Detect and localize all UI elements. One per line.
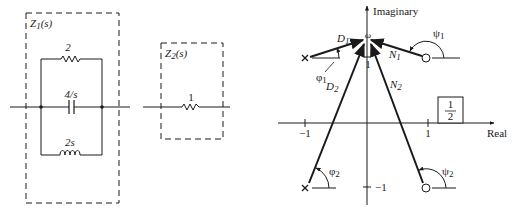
z1-resistor-value: 2 [65, 41, 71, 53]
label-n2: N2 [389, 78, 402, 92]
gain-box: 1 2 [438, 97, 463, 123]
gain-numerator: 1 [448, 98, 454, 110]
pole-upper [302, 55, 308, 61]
label-psi2: ψ2 [442, 165, 453, 179]
tick-y-neg1: −1 [375, 181, 387, 193]
arc-phi1 [337, 48, 339, 58]
vector-n2 [371, 44, 423, 183]
omega-label: ω [365, 30, 371, 40]
label-psi1: ψ1 [433, 27, 444, 41]
zero-upper [422, 54, 430, 62]
z1-inductor-value: 2s [65, 136, 75, 148]
tick-x-pos1: 1 [425, 127, 431, 139]
label-phi1: φ1 [316, 71, 327, 85]
label-d1: D1 [336, 32, 349, 46]
z1-resistor: 2 [41, 41, 102, 62]
label-phi2: φ2 [329, 165, 340, 179]
z1-network: Z1(s) 2 4/s 2s [10, 13, 130, 203]
pole-zero-plot: Imaginary Real −1 1 1 −1 ω D1 D2 [278, 5, 507, 205]
z2-resistor-value: 1 [188, 91, 194, 103]
gain-denominator: 2 [448, 110, 454, 122]
z1-inductor: 2s [41, 136, 102, 155]
vector-d2 [309, 44, 364, 183]
pole-lower [302, 185, 308, 191]
tick-y-pos1: 1 [365, 58, 371, 70]
tick-x-neg1: −1 [299, 127, 311, 139]
z2-network: Z2(s) 1 [143, 43, 230, 139]
label-n1: N1 [388, 48, 401, 62]
z1-title: Z1(s) [30, 17, 53, 31]
real-axis-label: Real [487, 127, 507, 139]
z2-title: Z2(s) [165, 47, 188, 61]
zero-lower [422, 184, 430, 192]
diagram-canvas: Z1(s) 2 4/s 2s Z2(s) [0, 0, 516, 217]
label-d2: D2 [325, 80, 339, 94]
z1-capacitor: 4/s [41, 88, 102, 114]
z1-capacitor-value: 4/s [65, 88, 78, 100]
arc-phi2 [316, 168, 329, 188]
imaginary-axis-label: Imaginary [373, 5, 419, 17]
